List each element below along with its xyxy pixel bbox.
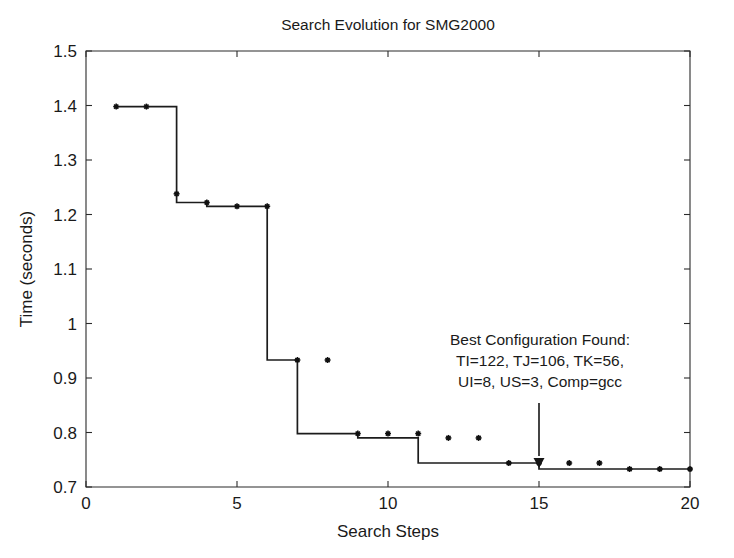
data-point-marker xyxy=(415,431,421,437)
y-tick-label: 0.8 xyxy=(53,424,77,443)
data-point-marker xyxy=(234,203,240,209)
y-tick-labels: 0.70.80.911.11.21.31.41.5 xyxy=(53,42,77,497)
data-point-marker xyxy=(596,460,602,466)
annotation-arrow xyxy=(534,403,545,468)
annotation-line: TI=122, TJ=106, TK=56, xyxy=(456,352,624,369)
annotation-line: UI=8, US=3, Comp=gcc xyxy=(458,373,622,390)
data-point-marker xyxy=(325,357,331,363)
y-tick-label: 1.4 xyxy=(53,97,77,116)
x-tick-label: 0 xyxy=(81,494,90,513)
x-tick-label: 5 xyxy=(232,494,241,513)
y-tick-label: 1.2 xyxy=(53,206,77,225)
x-tick-label: 20 xyxy=(681,494,700,513)
y-tick-label: 1 xyxy=(68,315,77,334)
figure-container: 0.70.80.911.11.21.31.41.5 05101520 Best … xyxy=(0,0,734,558)
data-point-marker xyxy=(294,357,300,363)
y-tick-label: 1.5 xyxy=(53,42,77,61)
data-point-marker xyxy=(687,466,693,472)
annotation-text-block: Best Configuration Found:TI=122, TJ=106,… xyxy=(450,331,630,390)
x-tick-label: 10 xyxy=(379,494,398,513)
data-point-markers xyxy=(113,104,693,472)
data-point-marker xyxy=(113,104,119,110)
data-point-marker xyxy=(476,435,482,441)
data-point-marker xyxy=(204,200,210,206)
data-point-marker xyxy=(566,460,572,466)
data-point-marker xyxy=(445,435,451,441)
data-point-marker xyxy=(657,466,663,472)
data-point-marker xyxy=(385,431,391,437)
y-axis-title: Time (seconds) xyxy=(17,211,36,328)
y-tick-label: 1.1 xyxy=(53,260,77,279)
x-axis-title: Search Steps xyxy=(337,522,439,541)
data-point-marker xyxy=(174,191,180,197)
x-tick-label: 15 xyxy=(530,494,549,513)
chart-title: Search Evolution for SMG2000 xyxy=(281,16,495,33)
data-point-marker xyxy=(627,466,633,472)
data-point-marker xyxy=(355,431,361,437)
annotation-line: Best Configuration Found: xyxy=(450,331,630,348)
data-point-marker xyxy=(506,460,512,466)
x-tick-labels: 05101520 xyxy=(81,494,699,513)
data-point-marker xyxy=(143,104,149,110)
y-tick-label: 1.3 xyxy=(53,151,77,170)
search-evolution-chart: 0.70.80.911.11.21.31.41.5 05101520 Best … xyxy=(0,0,734,558)
y-tick-label: 0.7 xyxy=(53,478,77,497)
y-tick-label: 0.9 xyxy=(53,369,77,388)
data-series-best-time xyxy=(113,104,693,472)
data-point-marker xyxy=(264,203,270,209)
